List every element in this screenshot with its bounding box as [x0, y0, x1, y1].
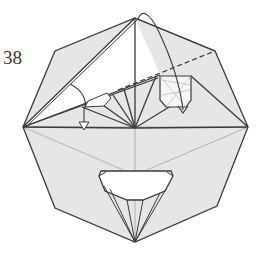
diagram-canvas — [0, 0, 263, 255]
origami-diagram: 38 — [0, 0, 263, 255]
